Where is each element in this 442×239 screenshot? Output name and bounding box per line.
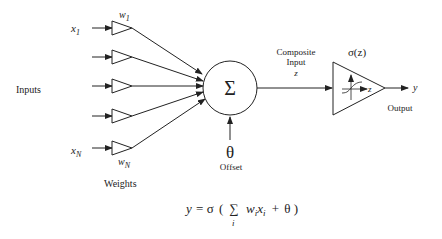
activation-axis-var: z [367,84,372,94]
output-var: y [412,82,418,93]
weight-branches [92,21,205,155]
composite-label-line2: Input [287,57,306,67]
weight-branch-3 [92,79,203,93]
weight-triangle-icon [112,79,132,93]
input-xn-label: xN [70,144,82,159]
formula-sum-index: i [232,218,235,228]
neuron-formula: y = σ ( ∑ wixi + θ ) i [184,201,298,228]
weight-branch-1 [92,21,202,74]
weight-triangle-icon [112,109,132,123]
weights-label: Weights [104,178,137,189]
sum-symbol: Σ [224,77,236,99]
activation-triangle-icon [333,62,385,115]
offset-symbol: θ [226,143,234,162]
composite-var: z [293,68,298,78]
weight-branch-4 [92,92,203,123]
output-label: Output [387,103,413,113]
input-x1-label: x1 [70,22,80,37]
neuron-diagram: Inputs x1 xN w1 wN Weights [0,0,442,239]
svg-text:y = σ (: y = σ ( ∑ wixi + θ ) [184,201,298,219]
weight-triangle-icon [112,141,132,155]
weight-w1-label: w1 [119,9,130,23]
offset-label: Offset [220,162,243,172]
inputs-label: Inputs [16,84,41,95]
activation-label: σ(z) [348,46,366,59]
weight-triangle-icon [112,50,132,64]
weight-wn-label: wN [118,156,131,170]
weight-branch-5 [92,99,205,155]
weight-branch-2 [92,50,203,81]
composite-label-line1: Composite [276,47,315,57]
weight-triangle-icon [112,21,132,35]
